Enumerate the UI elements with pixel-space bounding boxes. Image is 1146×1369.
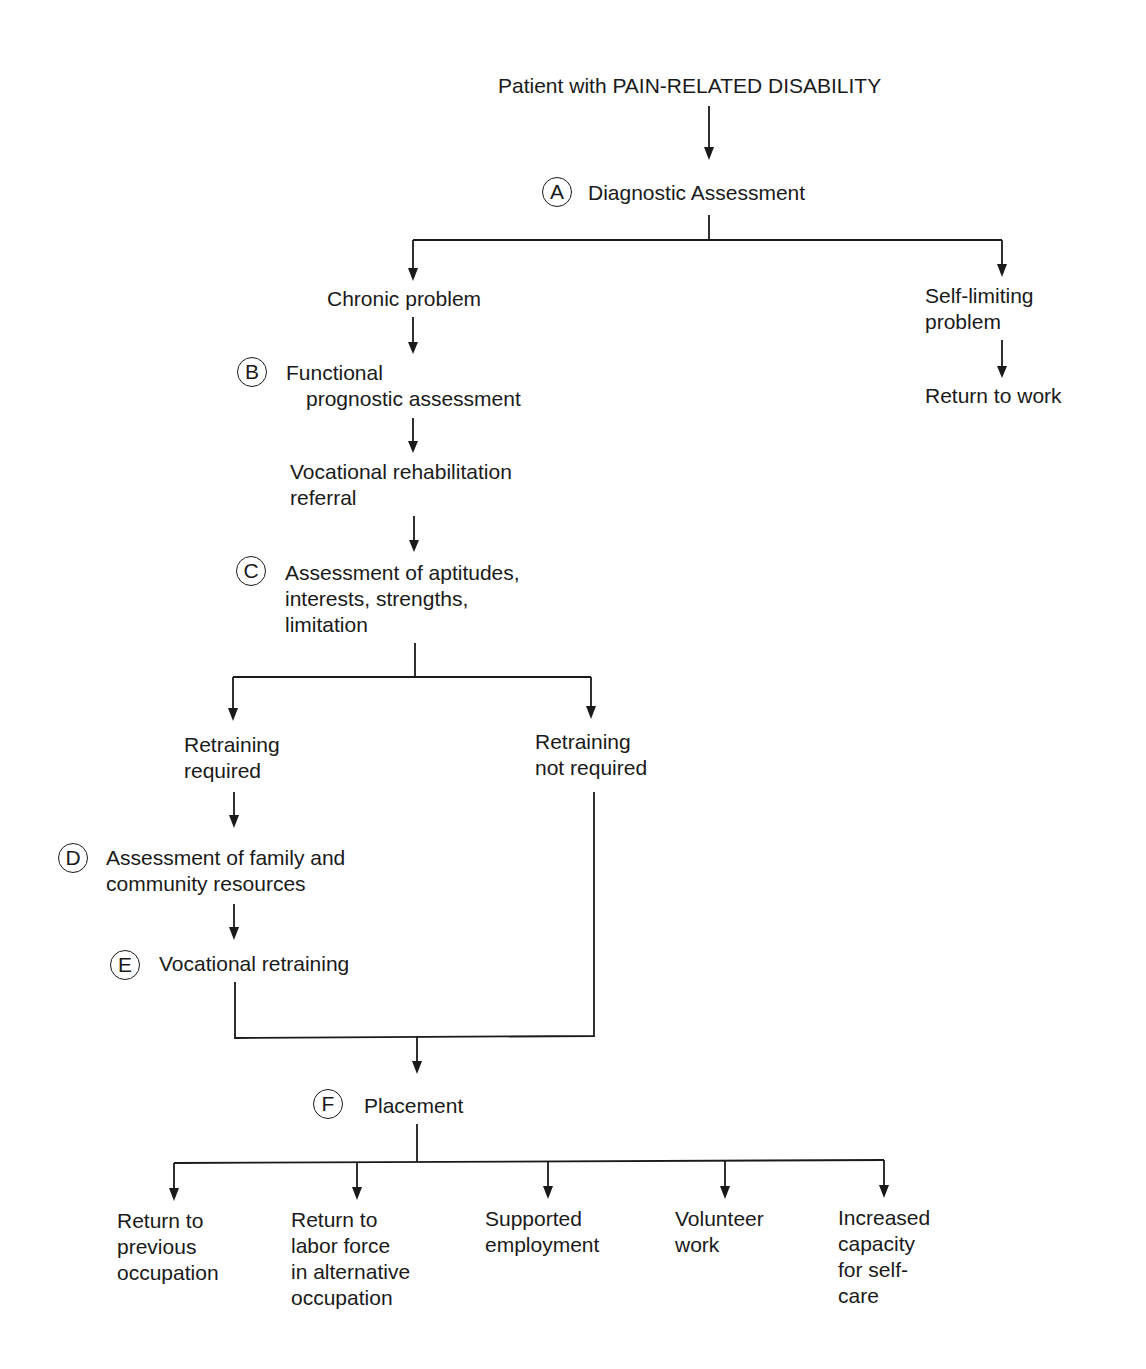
node-text: capacity: [838, 1231, 930, 1257]
arrowhead: [720, 1186, 730, 1199]
node-text: not required: [535, 755, 647, 781]
arrowhead: [997, 366, 1007, 378]
node-text: Increased: [838, 1205, 930, 1231]
outcome-volunteer-work: Volunteer work: [675, 1206, 764, 1258]
node-text: Vocational retraining: [159, 951, 349, 977]
edge-retraining-merge: [235, 792, 594, 1038]
node-text: Vocational rehabilitation: [290, 459, 512, 485]
node-text: Self-limiting: [925, 283, 1034, 309]
arrowhead: [408, 342, 418, 354]
node-text: work: [675, 1232, 764, 1258]
arrowhead: [704, 147, 714, 160]
node-text: community resources: [106, 871, 345, 897]
node-retraining-not-required: Retraining not required: [535, 729, 647, 781]
node-text: Return to: [291, 1207, 410, 1233]
node-diagnostic-assessment: Diagnostic Assessment: [588, 180, 805, 206]
node-text: Assessment of family and: [106, 845, 345, 871]
node-aptitudes-assessment: Assessment of aptitudes, interests, stre…: [285, 560, 520, 638]
edge-placement-bar: [174, 1160, 884, 1163]
step-marker-e: E: [110, 950, 140, 980]
step-marker-c: C: [236, 556, 266, 586]
node-text: occupation: [117, 1260, 219, 1286]
node-text: labor force: [291, 1233, 410, 1259]
arrowhead: [586, 706, 596, 719]
node-text: problem: [925, 309, 1034, 335]
connector-layer: [0, 0, 1146, 1369]
outcome-supported-employment: Supported employment: [485, 1206, 599, 1258]
node-text: interests, strengths,: [285, 586, 520, 612]
arrowhead: [412, 1061, 422, 1074]
arrowhead: [229, 815, 239, 828]
node-text: Diagnostic Assessment: [588, 180, 805, 206]
outcome-alternative-occupation: Return to labor force in alternative occ…: [291, 1207, 410, 1311]
node-text: required: [184, 758, 280, 784]
node-vocational-referral: Vocational rehabilitation referral: [290, 459, 512, 511]
outcome-self-care-capacity: Increased capacity for self- care: [838, 1205, 930, 1309]
arrowhead: [997, 264, 1007, 277]
arrowhead: [169, 1188, 179, 1201]
node-text: for self-: [838, 1257, 930, 1283]
node-text: Retraining: [535, 729, 647, 755]
node-text: Chronic problem: [327, 286, 481, 312]
node-text: Functional: [286, 360, 521, 386]
node-text: occupation: [291, 1285, 410, 1311]
node-retraining-required: Retraining required: [184, 732, 280, 784]
node-vocational-retraining: Vocational retraining: [159, 951, 349, 977]
outcome-return-previous-occupation: Return to previous occupation: [117, 1208, 219, 1286]
node-return-to-work: Return to work: [925, 383, 1062, 409]
node-self-limiting-problem: Self-limiting problem: [925, 283, 1034, 335]
arrowhead: [409, 540, 419, 552]
step-marker-b: B: [237, 357, 267, 387]
arrowhead: [408, 268, 418, 281]
node-text: referral: [290, 485, 512, 511]
step-marker-f: F: [313, 1089, 343, 1119]
step-marker-a: A: [542, 177, 572, 207]
arrowhead: [408, 441, 418, 453]
node-functional-assessment: Functional prognostic assessment: [286, 360, 521, 412]
node-text: care: [838, 1283, 930, 1309]
node-text: Assessment of aptitudes,: [285, 560, 520, 586]
node-text: Placement: [364, 1093, 463, 1119]
node-family-resources: Assessment of family and community resou…: [106, 845, 345, 897]
node-text: Supported: [485, 1206, 599, 1232]
node-text: in alternative: [291, 1259, 410, 1285]
arrowhead: [879, 1185, 889, 1198]
node-text: Volunteer: [675, 1206, 764, 1232]
node-start: Patient with PAIN-RELATED DISABILITY: [498, 73, 881, 99]
step-marker-d: D: [58, 843, 88, 873]
node-text: Return to: [117, 1208, 219, 1234]
node-text: Return to work: [925, 383, 1062, 409]
node-text: prognostic assessment: [286, 386, 521, 412]
node-text: Retraining: [184, 732, 280, 758]
node-text: Patient with PAIN-RELATED DISABILITY: [498, 73, 881, 99]
arrowhead: [228, 708, 238, 721]
node-chronic-problem: Chronic problem: [327, 286, 481, 312]
arrowhead: [352, 1187, 362, 1200]
node-text: limitation: [285, 612, 520, 638]
node-placement: Placement: [364, 1093, 463, 1119]
arrowhead: [543, 1186, 553, 1199]
arrowhead: [229, 927, 239, 940]
node-text: employment: [485, 1232, 599, 1258]
node-text: previous: [117, 1234, 219, 1260]
